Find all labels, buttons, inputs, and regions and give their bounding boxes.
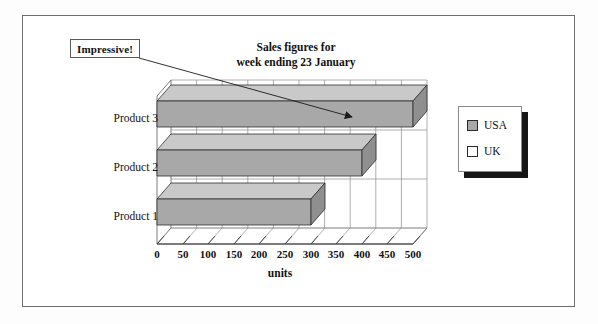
- bar-product-2[interactable]: [157, 134, 376, 176]
- bar-product-3[interactable]: [157, 85, 427, 127]
- category-label-product-1: Product 1: [78, 210, 158, 222]
- category-label-product-3: Product 3: [78, 112, 158, 124]
- chart-legend[interactable]: USA UK: [458, 106, 522, 172]
- legend-item-uk[interactable]: UK: [467, 145, 501, 157]
- legend-label-uk: UK: [484, 145, 501, 157]
- chart-title-line-1: Sales figures for: [256, 41, 335, 53]
- annotation-callout-box[interactable]: Impressive!: [70, 39, 140, 58]
- chart-title: Sales figures for week ending 23 January: [196, 40, 396, 70]
- chart-title-line-2: week ending 23 January: [196, 55, 396, 70]
- x-tick-label-500: 500: [398, 248, 428, 260]
- screenshot-page: Impressive! Sales figures for week endin…: [0, 0, 598, 324]
- legend-swatch-uk: [467, 146, 478, 157]
- x-axis-label: units: [220, 267, 340, 279]
- legend-label-usa: USA: [484, 119, 507, 131]
- legend-item-usa[interactable]: USA: [467, 119, 507, 131]
- annotation-callout-label: Impressive!: [77, 43, 133, 55]
- category-label-product-2: Product 2: [78, 161, 158, 173]
- legend-swatch-usa: [467, 120, 478, 131]
- bar-product-1[interactable]: [157, 183, 325, 225]
